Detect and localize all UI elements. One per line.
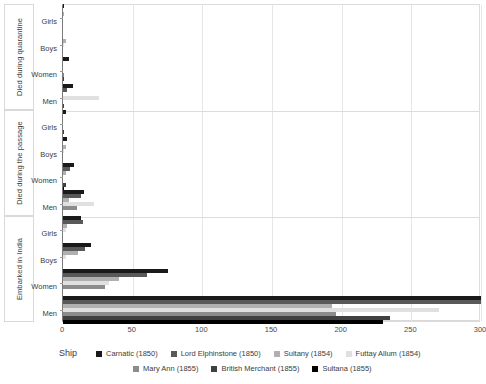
bar [63,171,66,175]
legend-item[interactable]: Lord Elphinstone (1850) [171,349,261,358]
bar [63,4,64,8]
legend-item[interactable]: British Merchant (1855) [211,364,299,373]
legend-label: Sultana (1855) [322,364,371,373]
category-label: Women [31,176,57,185]
group-band-label: Died during quarantine [15,18,24,96]
x-tick-label: 0 [60,325,64,334]
legend: Ship Carnatic (1850)Lord Elphinstone (18… [0,344,484,384]
group-band-label: Embarked in India [15,238,24,300]
axis-tick [60,177,63,178]
legend-swatch [96,351,102,357]
legend-label: Lord Elphinstone (1850) [181,349,261,358]
bar [63,130,64,134]
bar [63,149,64,153]
x-axis: 050100150200250300 [62,322,480,338]
legend-swatch [312,366,318,372]
x-tick-label: 300 [474,325,486,334]
gridline [411,5,412,321]
bar [63,77,64,81]
legend-swatch [346,351,352,357]
category-label: Men [42,202,57,211]
legend-item[interactable]: Sultany (1854) [274,349,333,358]
bar [63,255,66,259]
group-band: Embarked in India [4,216,34,322]
category-axis: GirlsBoysWomenMenGirlsBoysWomenMenGirlsB… [34,4,60,322]
gridline [342,5,343,321]
axis-tick [60,124,63,125]
gridline [481,5,482,321]
legend-swatch [274,351,280,357]
gridline [202,5,203,321]
bar [63,285,105,289]
category-label: Boys [40,255,57,264]
group-band: Died during quarantine [4,4,34,110]
legend-label: Sultany (1854) [284,349,333,358]
category-label: Boys [40,149,57,158]
bar [63,43,64,47]
legend-item[interactable]: Futtay Allum (1854) [346,349,421,358]
bar [63,96,99,100]
legend-row-secondary: Mary Ann (1855)British Merchant (1855)Su… [133,364,385,373]
legend-label: Carnatic (1850) [106,349,158,358]
plot-area: Died during quarantineDied during the pa… [0,0,484,340]
category-label: Girls [42,229,57,238]
legend-row-primary: Carnatic (1850)Lord Elphinstone (1850)Su… [96,349,434,358]
group-band-axis: Died during quarantineDied during the pa… [4,4,34,322]
legend-item[interactable]: Carnatic (1850) [96,349,158,358]
x-tick-label: 50 [127,325,135,334]
gridline [272,5,273,321]
legend-swatch [211,366,217,372]
legend-swatch [171,351,177,357]
bar [63,88,67,92]
legend-item[interactable]: Mary Ann (1855) [133,364,198,373]
category-label: Boys [40,43,57,52]
category-label: Women [31,70,57,79]
bar [63,110,66,114]
x-tick-label: 200 [334,325,347,334]
legend-label: British Merchant (1855) [221,364,299,373]
bar [63,137,67,141]
bar [63,57,69,61]
legend-label: Futtay Allum (1854) [356,349,421,358]
axis-tick [60,18,63,19]
bar [63,228,66,232]
legend-title: Ship [59,348,77,358]
bar [63,12,64,16]
category-label: Girls [42,123,57,132]
category-label: Girls [42,17,57,26]
category-label: Men [42,96,57,105]
group-band: Died during the passage [4,110,34,216]
group-band-label: Died during the passage [15,121,24,205]
group-separator [63,217,479,218]
legend-item[interactable]: Sultana (1855) [312,364,371,373]
category-label: Women [31,282,57,291]
group-separator [63,111,479,112]
x-tick-label: 250 [404,325,417,334]
legend-swatch [133,366,139,372]
axis-tick [60,71,63,72]
x-tick-label: 100 [195,325,208,334]
bars-panel [62,4,480,322]
category-label: Men [42,308,57,317]
bar [63,206,77,210]
legend-label: Mary Ann (1855) [143,364,198,373]
x-tick-label: 150 [265,325,278,334]
bar [63,104,64,108]
